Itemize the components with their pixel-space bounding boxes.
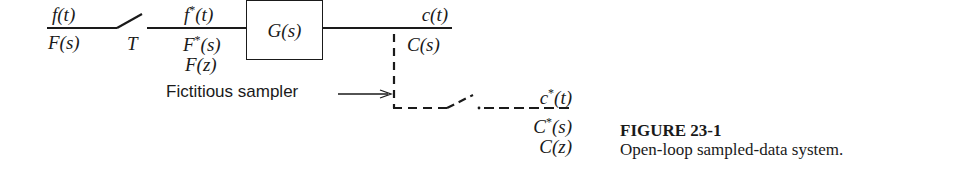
figure-caption: Open-loop sampled-data system. [620, 141, 843, 158]
figure-number: FIGURE 23-1 [620, 122, 722, 139]
star-superscript: * [546, 115, 552, 129]
transfer-function-block: G(s) [246, 0, 323, 60]
output-time-signal: c(t) [392, 5, 448, 24]
fn-arg: (t) [554, 87, 572, 108]
sampled-input-time-signal: f*(t) [184, 5, 213, 24]
fn-name: c [540, 87, 548, 108]
input-time-signal: f(t) [52, 5, 75, 24]
input-laplace-signal: F(s) [48, 33, 80, 52]
output-laplace-signal: C(s) [407, 35, 440, 54]
transfer-function-label: G(s) [268, 21, 302, 40]
sampled-output-z-signal: C(z) [500, 137, 572, 156]
star-superscript: * [548, 86, 554, 100]
sampled-output-time-signal: c*(t) [500, 88, 572, 107]
fictitious-switch-dot [478, 107, 481, 110]
fictitious-sampler-label: Fictitious sampler [166, 83, 298, 100]
diagram-canvas: f(t) F(s) T f*(t) F*(s) F(z) G(s) c(t) C… [0, 0, 960, 173]
sampled-input-z-signal: F(z) [185, 55, 217, 74]
fn-arg: (s) [552, 116, 572, 137]
sampled-output-laplace-signal: C*(s) [500, 117, 572, 136]
fn-name: F [183, 34, 195, 55]
fn-arg: (t) [195, 4, 213, 25]
sampling-period-label: T [127, 34, 138, 53]
star-superscript: * [195, 33, 201, 47]
fn-arg: (s) [201, 34, 221, 55]
sampler-switch-icon [117, 14, 142, 28]
star-superscript: * [189, 3, 195, 17]
fictitious-switch-icon [447, 95, 473, 108]
sampled-input-laplace-signal: F*(s) [183, 35, 221, 54]
fn-name: C [533, 116, 546, 137]
